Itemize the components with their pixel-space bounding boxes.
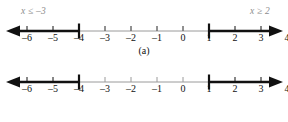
tick-label-a-3: –3: [96, 32, 114, 43]
tick-label-b-6: 0: [174, 83, 192, 94]
number-line-panel-b: –6 –5 –4 –3 –2 –1 0 1 2 3 4 (b): [0, 51, 288, 122]
tick-label-a-0: –6: [18, 32, 36, 43]
tick-label-a-1: –5: [44, 32, 62, 43]
tick-label-b-1: –5: [44, 83, 62, 94]
tick-label-b-3: –3: [96, 83, 114, 94]
tick-label-b-7: 1: [200, 83, 218, 94]
tick-label-b-9: 3: [252, 83, 270, 94]
tick-label-b-5: –1: [148, 83, 166, 94]
tick-label-b-8: 2: [226, 83, 244, 94]
tick-label-b-4: –2: [122, 83, 140, 94]
tick-label-a-10: 4: [278, 32, 288, 43]
tick-label-b-10: 4: [278, 83, 288, 94]
tick-label-a-4: –2: [122, 32, 140, 43]
tick-label-a-7: 1: [200, 32, 218, 43]
figure-root: x ≤ –3 x ≥ 2: [0, 0, 288, 122]
tick-label-b-2: –4: [70, 83, 88, 94]
tick-label-a-6: 0: [174, 32, 192, 43]
tick-label-a-9: 3: [252, 32, 270, 43]
tick-label-a-5: –1: [148, 32, 166, 43]
tick-marks-inactive-a: [105, 26, 183, 31]
tick-marks-inactive-b: [105, 77, 183, 82]
tick-label-a-2: –4: [70, 32, 88, 43]
tick-label-a-8: 2: [226, 32, 244, 43]
tick-label-b-0: –6: [18, 83, 36, 94]
